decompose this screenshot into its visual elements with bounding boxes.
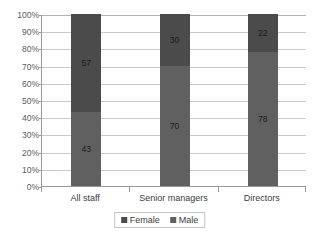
square-marker-icon [170, 217, 176, 223]
category-label: All staff [70, 193, 99, 203]
bar-group[interactable]: 7822 [248, 14, 278, 186]
y-axis-tick-label: 60% [0, 79, 39, 89]
bar-value-label: 70 [170, 122, 179, 131]
bar-segment-male[interactable]: 43 [71, 112, 101, 186]
y-axis-tick-mark [39, 135, 42, 136]
category-tick-mark [305, 187, 306, 192]
bar-segment-male[interactable]: 78 [248, 52, 278, 186]
chart-legend: FemaleMale [114, 212, 206, 228]
y-axis-tick-mark [39, 67, 42, 68]
bar-value-label: 30 [170, 36, 179, 45]
y-axis-tick-label: 20% [0, 148, 39, 158]
bar-group[interactable]: 4357 [71, 14, 101, 186]
bar-value-label: 22 [258, 29, 267, 38]
bar-value-label: 78 [258, 115, 267, 124]
y-axis-tick-label: 80% [0, 44, 39, 54]
y-axis-tick-label: 0% [0, 182, 39, 192]
y-axis-tick-label: 40% [0, 113, 39, 123]
legend-label: Male [179, 215, 199, 225]
bar-segment-female[interactable]: 57 [71, 14, 101, 112]
bar-segment-male[interactable]: 70 [160, 66, 190, 186]
y-axis-tick-label: 10% [0, 165, 39, 175]
y-axis-tick-label: 50% [0, 96, 39, 106]
bar-value-label: 43 [81, 145, 90, 154]
y-axis-tick-mark [39, 101, 42, 102]
y-axis-tick-mark [39, 32, 42, 33]
legend-item[interactable]: Female [121, 215, 160, 225]
stacked-bar-chart: 0%10%20%30%40%50%60%70%80%90%100%4357703… [0, 0, 319, 241]
category-tick-mark [129, 187, 130, 192]
y-axis-tick-mark [39, 49, 42, 50]
plot-area: 0%10%20%30%40%50%60%70%80%90%100%4357703… [41, 15, 306, 187]
category-tick-mark [41, 187, 42, 192]
legend-item[interactable]: Male [170, 215, 199, 225]
category-label: Senior managers [139, 193, 208, 203]
y-axis-tick-label: 100% [0, 10, 39, 20]
y-axis-tick-mark [39, 153, 42, 154]
bar-segment-female[interactable]: 30 [160, 14, 190, 66]
y-axis-tick-label: 90% [0, 27, 39, 37]
y-axis-tick-mark [39, 15, 42, 16]
y-axis-tick-mark [39, 170, 42, 171]
y-axis-tick-mark [39, 84, 42, 85]
y-axis-tick-label: 30% [0, 130, 39, 140]
bar-segment-female[interactable]: 22 [248, 14, 278, 52]
category-tick-mark [218, 187, 219, 192]
bar-value-label: 57 [81, 59, 90, 68]
category-axis: All staffSenior managersDirectors [41, 187, 306, 207]
y-axis-tick-mark [39, 118, 42, 119]
category-label: Directors [244, 193, 280, 203]
legend-label: Female [130, 215, 160, 225]
bar-group[interactable]: 7030 [160, 14, 190, 186]
square-marker-icon [121, 217, 127, 223]
y-axis-tick-label: 70% [0, 62, 39, 72]
